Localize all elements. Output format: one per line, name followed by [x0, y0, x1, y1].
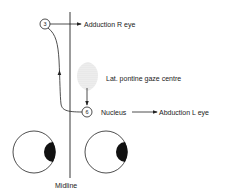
nucleus-label: Nucleus — [101, 109, 127, 116]
gaze-pathway-diagram: 3 Adduction R eye Lat. pontine gaze cent… — [0, 0, 237, 192]
third-nucleus-label: 3 — [43, 21, 46, 27]
mlf-arrow-icon — [58, 70, 62, 75]
left-eye-icon — [85, 131, 128, 173]
right-eye-icon — [13, 131, 56, 173]
pontine-gaze-centre-blob — [77, 62, 98, 91]
midline-label: Midline — [55, 182, 77, 189]
sixth-nucleus: 6 — [82, 107, 92, 117]
mlf-pathway — [48, 28, 82, 112]
sixth-nucleus-label: 6 — [85, 109, 88, 115]
adduction-label: Adduction R eye — [84, 21, 135, 29]
third-nucleus: 3 — [40, 19, 50, 29]
abduction-label: Abduction L eye — [159, 109, 209, 117]
pontine-gaze-centre-label: Lat. pontine gaze centre — [106, 75, 181, 83]
